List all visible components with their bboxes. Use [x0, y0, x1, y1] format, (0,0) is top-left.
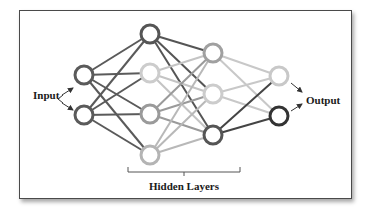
output-node-2: [270, 107, 288, 125]
output-arrow-top: [291, 83, 302, 92]
input-node-1: [75, 66, 93, 84]
output-label: Output: [306, 94, 341, 106]
hidden-2-node-3: [204, 126, 222, 144]
neural-network-diagram: Input Output Hidden Layers: [0, 0, 371, 207]
hidden-layers-label: Hidden Layers: [149, 180, 220, 192]
hidden-1-node-2: [141, 64, 159, 82]
connection-edge: [84, 34, 150, 75]
diagram-canvas: Input Output Hidden Layers: [0, 0, 371, 207]
hidden-2-node-2: [204, 85, 222, 103]
hidden-2-node-1: [204, 44, 222, 62]
output-node-1: [270, 67, 288, 85]
hidden-1-node-3: [141, 105, 159, 123]
connections: [84, 34, 279, 155]
input-node-2: [75, 106, 93, 124]
hidden-1-node-1: [141, 25, 159, 43]
input-arrow-top: [62, 88, 73, 95]
connection-edge: [84, 115, 150, 155]
hidden-1-node-4: [141, 146, 159, 164]
input-label: Input: [33, 89, 60, 101]
hidden-layers-bracket: [128, 167, 240, 176]
input-arrow-bottom: [62, 103, 73, 110]
output-arrow-bottom: [291, 104, 302, 111]
